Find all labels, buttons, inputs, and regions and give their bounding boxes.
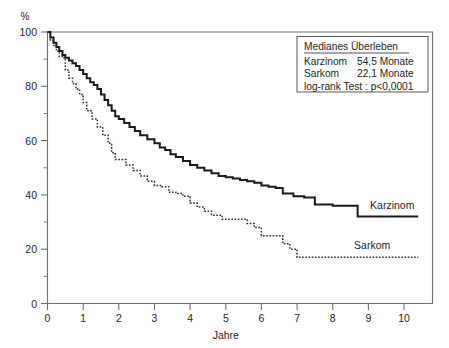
x-tick-label-8: 8 <box>330 312 336 324</box>
x-axis-title: Jahre <box>213 329 239 341</box>
y-axis-unit-label: % <box>21 11 30 22</box>
y-axis-tick-labels: 100 80 60 40 20 0 <box>19 26 37 310</box>
x-tick-label-3: 3 <box>152 312 158 324</box>
y-tick-label-20: 20 <box>25 243 37 255</box>
curve-labels: Karzinom Sarkom <box>354 199 415 250</box>
x-tick-label-10: 10 <box>398 312 410 324</box>
x-axis-ticks <box>48 304 405 311</box>
survival-chart: 100 80 60 40 20 0 % 0 1 2 3 <box>0 0 449 348</box>
kaplan-meier-figure: 100 80 60 40 20 0 % 0 1 2 3 <box>0 0 449 348</box>
legend-row-karzinom-value: 54,5 Monate <box>357 56 414 67</box>
x-tick-label-7: 7 <box>294 312 300 324</box>
legend-row-sarkom-label: Sarkom <box>304 68 339 79</box>
y-tick-label-100: 100 <box>19 26 37 38</box>
x-tick-label-0: 0 <box>45 312 51 324</box>
y-tick-label-60: 60 <box>25 135 37 147</box>
x-tick-label-2: 2 <box>116 312 122 324</box>
y-tick-label-40: 40 <box>25 189 37 201</box>
x-tick-label-4: 4 <box>187 312 193 324</box>
legend-row-karzinom-label: Karzinom <box>304 56 347 67</box>
y-axis-ticks <box>41 32 48 304</box>
x-tick-label-5: 5 <box>223 312 229 324</box>
y-tick-label-80: 80 <box>25 80 37 92</box>
x-tick-label-9: 9 <box>365 312 371 324</box>
x-axis-tick-labels: 0 1 2 3 4 5 6 7 8 9 10 <box>45 312 410 324</box>
legend-title: Medianes Überleben <box>304 41 398 52</box>
sarkom-curve-label: Sarkom <box>354 239 390 251</box>
karzinom-curve-label: Karzinom <box>370 199 415 211</box>
legend-logrank-stat: log-rank Test : p<0,0001 <box>304 81 414 92</box>
x-tick-label-1: 1 <box>80 312 86 324</box>
x-tick-label-6: 6 <box>258 312 264 324</box>
y-tick-label-0: 0 <box>31 298 37 310</box>
legend-row-sarkom-value: 22,1 Monate <box>357 68 414 79</box>
legend-box: Medianes Überleben Karzinom 54,5 Monate … <box>297 37 428 93</box>
